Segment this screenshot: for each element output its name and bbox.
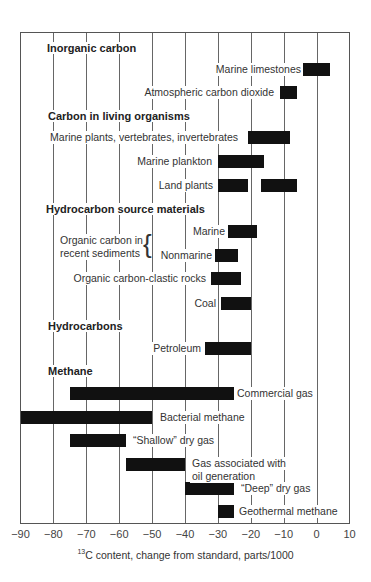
range-bar bbox=[221, 297, 251, 310]
label-marine-plants: Marine plants, vertebrates, invertebrate… bbox=[48, 131, 240, 144]
range-bar bbox=[211, 272, 241, 285]
x-axis-label: 13C content, change from standard, parts… bbox=[0, 548, 371, 561]
label-marine-plankton: Marine plankton bbox=[135, 155, 214, 168]
range-bar bbox=[218, 179, 248, 192]
x-tick-label: −90 bbox=[11, 528, 30, 540]
range-bar bbox=[303, 63, 329, 76]
range-bar bbox=[248, 131, 291, 144]
x-tick-label: −70 bbox=[77, 528, 96, 540]
x-tick-label: 0 bbox=[314, 528, 320, 540]
x-axis-label-text: C content, change from standard, parts/1… bbox=[85, 549, 293, 561]
x-tick-label: −40 bbox=[176, 528, 195, 540]
label-shallow: “Shallow” dry gas bbox=[131, 434, 216, 447]
x-tick-label: 10 bbox=[343, 528, 355, 540]
range-bar bbox=[218, 155, 264, 168]
x-tick-label: −80 bbox=[44, 528, 63, 540]
group-heading-source: Hydrocarbon source materials bbox=[45, 203, 206, 215]
range-bar bbox=[185, 482, 234, 495]
x-tick-label: −60 bbox=[110, 528, 129, 540]
range-bar bbox=[70, 387, 235, 400]
label-brace-1: Organic carbon in bbox=[58, 234, 145, 247]
label-coal: Coal bbox=[192, 297, 218, 310]
range-bar bbox=[228, 225, 258, 238]
x-tick-label: −10 bbox=[274, 528, 293, 540]
label-nonmarine: Nonmarine bbox=[159, 249, 214, 262]
range-bar bbox=[21, 411, 153, 424]
range-bar bbox=[70, 434, 126, 447]
range-bar bbox=[280, 86, 296, 99]
label-marine-limestones: Marine limestones bbox=[214, 63, 303, 76]
group-heading-methane: Methane bbox=[47, 365, 94, 377]
group-heading-living: Carbon in living organisms bbox=[47, 110, 191, 122]
range-bar bbox=[126, 458, 185, 471]
label-marine: Marine bbox=[191, 225, 227, 238]
range-bar bbox=[261, 179, 297, 192]
group-heading-hydrocarbons: Hydrocarbons bbox=[47, 320, 124, 332]
label-land-plants: Land plants bbox=[157, 179, 215, 192]
label-commercial: Commercial gas bbox=[235, 387, 315, 400]
range-bar bbox=[205, 342, 251, 355]
range-bar bbox=[215, 249, 238, 262]
label-geothermal: Geothermal methane bbox=[237, 505, 340, 518]
group-heading-inorganic: Inorganic carbon bbox=[46, 42, 137, 54]
x-tick-label: −30 bbox=[209, 528, 228, 540]
brace-icon: { bbox=[143, 231, 152, 257]
label-petroleum: Petroleum bbox=[151, 342, 203, 355]
label-assoc-1: Gas associated with bbox=[190, 457, 288, 470]
range-bar bbox=[218, 505, 234, 518]
label-atm-co2: Atmospheric carbon dioxide bbox=[142, 86, 276, 99]
label-clastic: Organic carbon-clastic rocks bbox=[72, 272, 208, 285]
label-bacterial: Bacterial methane bbox=[158, 411, 247, 424]
chart-root: Inorganic carbon Marine limestones Atmos… bbox=[0, 0, 371, 582]
label-deep: “Deep” dry gas bbox=[239, 482, 312, 495]
label-brace-2: recent sediments bbox=[58, 247, 142, 260]
x-tick-label: −50 bbox=[143, 528, 162, 540]
x-tick-label: −20 bbox=[241, 528, 260, 540]
